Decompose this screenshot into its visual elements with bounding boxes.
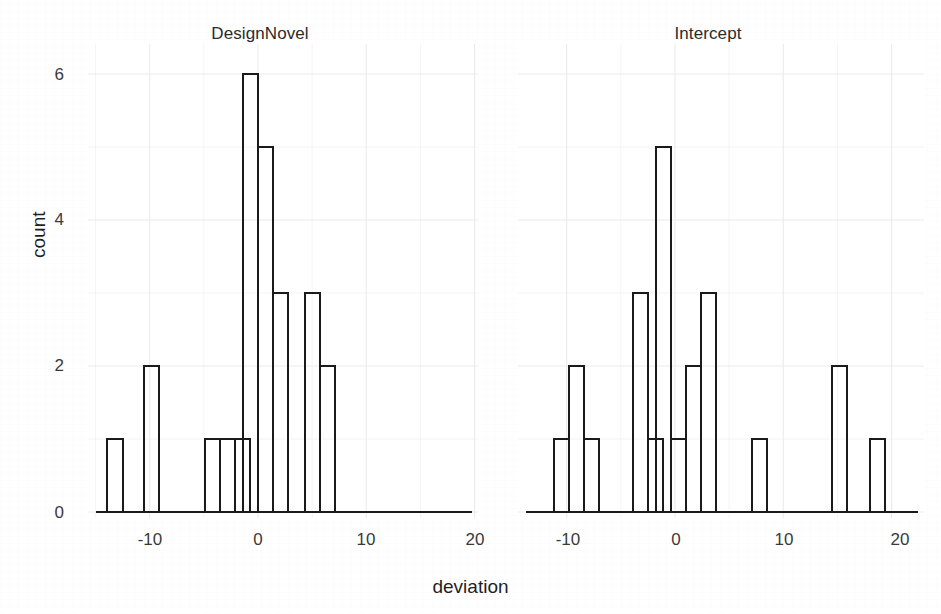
plot-canvas: [0, 0, 941, 614]
histogram-figure: DesignNovel Intercept 6 4 2 0 count -10 …: [0, 0, 941, 614]
panel-background: [88, 44, 478, 518]
panel-background: [518, 44, 924, 518]
panel-designnovel: [88, 44, 478, 518]
panel-intercept: [518, 44, 924, 518]
